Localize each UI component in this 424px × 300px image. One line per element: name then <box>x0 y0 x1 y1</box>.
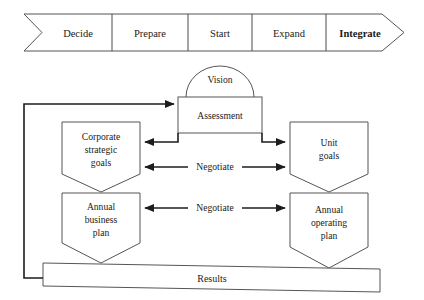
corporate-strategic-goals-label-line2: strategic <box>85 144 118 155</box>
annual-business-plan-label-line3: plan <box>93 227 110 238</box>
assessment-to-corporate-path <box>145 133 178 142</box>
negotiate-upper-connector: Negotiate <box>145 161 285 172</box>
results-label: Results <box>197 273 227 284</box>
annual-business-plan-label-line2: business <box>85 214 118 225</box>
corporate-strategic-goals-label-line3: goals <box>91 157 112 168</box>
phase-step-start[interactable]: Start <box>210 28 230 39</box>
annual-operating-plan-node: Annual operating plan <box>290 193 368 268</box>
corporate-strategic-goals-label-line1: Corporate <box>82 131 120 142</box>
diagram-svg: Decide Prepare Start Expand Integrate Vi… <box>0 0 424 300</box>
assessment-node: Assessment <box>178 97 262 133</box>
assessment-to-corporate-connector <box>145 133 178 142</box>
unit-goals-label-line1: Unit <box>320 137 337 148</box>
annual-operating-plan-label-line3: plan <box>321 230 338 241</box>
phase-step-prepare[interactable]: Prepare <box>134 28 166 39</box>
annual-operating-plan-label-line1: Annual <box>315 204 344 215</box>
phase-step-decide[interactable]: Decide <box>63 28 93 39</box>
annual-business-plan-node: Annual business plan <box>62 193 140 263</box>
annual-business-plan-label-line1: Annual <box>87 201 116 212</box>
phase-step-expand[interactable]: Expand <box>273 28 306 39</box>
assessment-to-unit-path <box>262 133 285 142</box>
negotiate-lower-connector: Negotiate <box>145 202 285 213</box>
unit-goals-label-line2: goals <box>319 150 340 161</box>
corporate-strategic-goals-node: Corporate strategic goals <box>62 122 140 192</box>
negotiate-lower-label: Negotiate <box>196 202 233 213</box>
assessment-to-unit-connector <box>262 133 285 142</box>
assessment-label: Assessment <box>197 110 243 121</box>
vision-label: Vision <box>207 74 232 85</box>
annual-operating-plan-label-line2: operating <box>311 217 347 228</box>
negotiate-upper-label: Negotiate <box>196 161 233 172</box>
phase-chevron-banner: Decide Prepare Start Expand Integrate <box>24 14 404 51</box>
phase-step-integrate[interactable]: Integrate <box>339 28 381 39</box>
unit-goals-node: Unit goals <box>290 122 368 192</box>
vision-node: Vision <box>186 66 254 97</box>
diagram-canvas: Decide Prepare Start Expand Integrate Vi… <box>0 0 424 300</box>
